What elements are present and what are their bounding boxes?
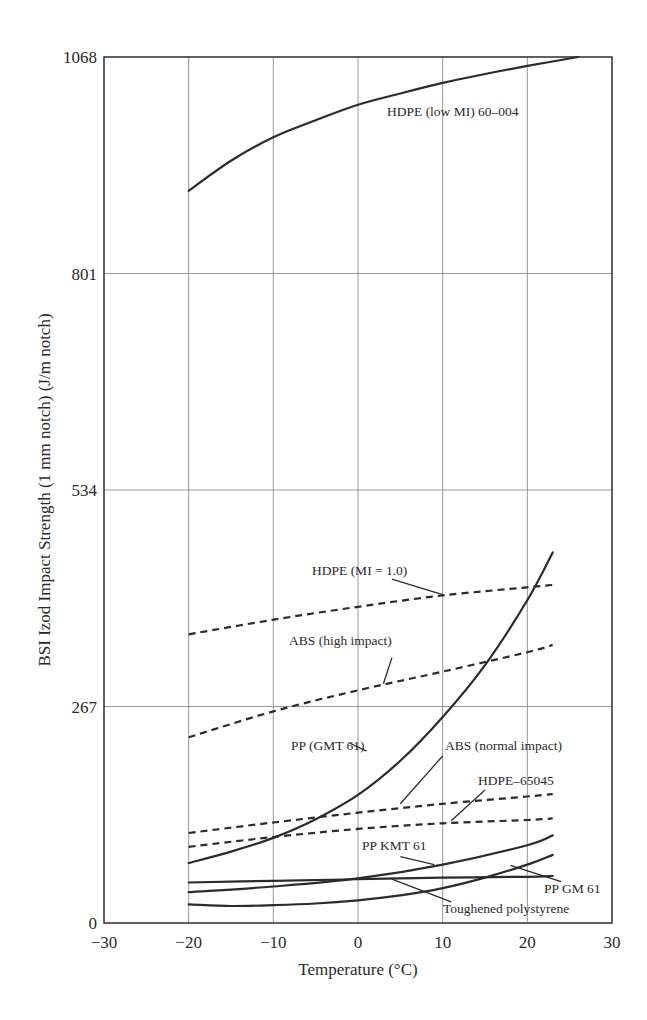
x-tick-label: −10	[260, 933, 287, 952]
grid-lines	[104, 57, 612, 923]
x-tick-label: 30	[604, 933, 621, 952]
y-tick-label: 267	[72, 698, 98, 717]
y-axis-ticks: 02675348011068	[63, 48, 98, 933]
x-tick-label: 0	[354, 933, 363, 952]
curve-hdpe-low-mi-60-004	[189, 57, 578, 191]
label-hdpe-low-mi: HDPE (low MI) 60–004	[387, 104, 519, 119]
leader-line-hdpe-65045	[451, 790, 485, 821]
label-pp-kmt-61: PP KMT 61	[362, 838, 427, 853]
label-pp-gmt-61: PP (GMT 61)	[291, 738, 365, 753]
label-pp-gm-61: PP GM 61	[544, 881, 601, 896]
x-axis-title: Temperature (°C)	[298, 960, 417, 979]
leader-line-hdpe-mi-1-0	[392, 579, 443, 594]
y-tick-label: 534	[72, 481, 98, 500]
curve-abs-high-impact	[189, 645, 553, 737]
y-axis-title: BSI Izod Impact Strength (1 mm notch) (J…	[35, 313, 54, 666]
x-tick-label: 20	[519, 933, 536, 952]
curve-hdpe-mi-1-0	[189, 585, 553, 634]
label-hdpe-65045: HDPE–65045	[478, 773, 554, 788]
x-tick-label: 10	[434, 933, 451, 952]
y-tick-label: 1068	[63, 48, 97, 67]
leader-line-abs-high-impact	[383, 658, 391, 684]
leader-line-pp-gm-61	[510, 865, 561, 881]
x-axis-ticks: −30−20−100102030	[91, 933, 621, 952]
label-abs-high-impact: ABS (high impact)	[289, 633, 392, 648]
x-tick-label: −20	[175, 933, 202, 952]
label-abs-normal-impact: ABS (normal impact)	[445, 738, 562, 753]
leader-line-abs-normal-impact	[400, 756, 442, 804]
y-tick-label: 801	[72, 265, 98, 284]
curve-pp-gmt-61	[189, 552, 553, 863]
x-tick-label: −30	[91, 933, 118, 952]
y-tick-label: 0	[89, 914, 98, 933]
impact-strength-chart: −30−20−100102030 02675348011068 Temperat…	[0, 0, 647, 1020]
leader-line-pp-kmt-61	[400, 857, 434, 865]
label-toughened-polystyrene: Toughened polystyrene	[443, 901, 569, 916]
label-hdpe-mi-1: HDPE (MI = 1.0)	[312, 563, 407, 578]
